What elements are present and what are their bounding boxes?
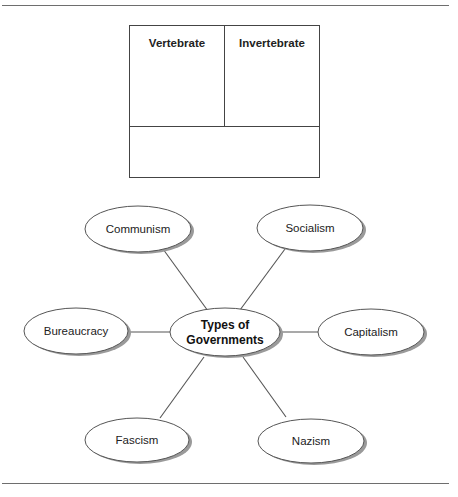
node-center-types-of-governments: Types of Governments [170,308,283,358]
node-communism: Communism [85,206,194,254]
node-nazism: Nazism [258,419,367,465]
bottom-rule [2,483,449,484]
node-capitalism: Capitalism [318,309,427,357]
node-bureaucracy: Bureaucracy [24,308,131,356]
node-label: Fascism [116,434,159,446]
node-label: Communism [106,223,171,235]
node-label: Bureaucracy [44,325,109,337]
center-label-line1: Types of [201,318,250,332]
node-fascism: Fascism [85,418,192,464]
node-label: Nazism [292,435,330,447]
center-label-line2: Governments [186,333,264,347]
concept-web-diagram: Communism Socialism Bureaucracy Types of… [0,0,458,497]
connector-fascism [160,357,204,418]
node-label: Socialism [285,222,334,234]
node-socialism: Socialism [257,205,366,253]
connector-socialism [240,249,285,310]
connector-nazism [243,357,286,417]
node-label: Capitalism [344,326,398,338]
connector-communism [163,249,208,311]
